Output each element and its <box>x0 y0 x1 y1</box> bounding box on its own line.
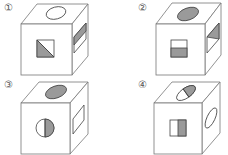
half-shaded-square-icon <box>178 120 186 136</box>
cube-3 <box>0 77 114 155</box>
option-1-panel: ① <box>0 0 114 77</box>
cube-2 <box>114 0 228 77</box>
cube-4 <box>114 77 228 155</box>
half-shaded-square-icon <box>171 48 187 57</box>
option-4-panel: ④ <box>114 77 228 154</box>
cube-1 <box>0 0 114 77</box>
option-3-panel: ③ <box>0 77 114 154</box>
option-2-panel: ② <box>114 0 228 77</box>
